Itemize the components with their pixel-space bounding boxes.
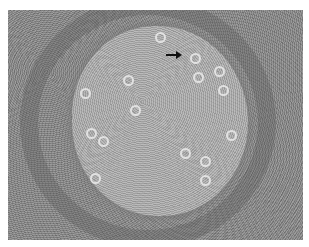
macrophage-cell	[98, 136, 109, 147]
macrophage-cell	[180, 148, 191, 159]
macrophage-cell	[123, 75, 134, 86]
macrophage-cell	[90, 173, 101, 184]
arrow-shaft-icon	[166, 54, 176, 56]
macrophage-cell	[193, 72, 204, 83]
macrophage-cell	[80, 88, 91, 99]
arrow-head-icon	[176, 51, 182, 59]
macrophage-cell	[214, 66, 225, 77]
micrograph-image	[8, 10, 303, 240]
macrophage-cell	[130, 105, 141, 116]
macrophage-cell	[200, 156, 211, 167]
macrophage-cell	[226, 130, 237, 141]
germinal-center	[72, 26, 248, 216]
macrophage-cell	[200, 175, 211, 186]
annotation-arrow	[166, 51, 182, 59]
macrophage-cell	[218, 85, 229, 96]
macrophage-cell	[190, 53, 201, 64]
macrophage-cell	[86, 128, 97, 139]
macrophage-cell	[155, 32, 166, 43]
